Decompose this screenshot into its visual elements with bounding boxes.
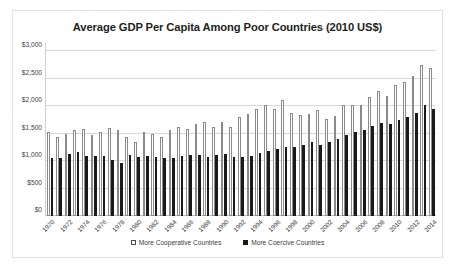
bar-group-1982 (150, 51, 159, 216)
bar-coercive-1976 (103, 156, 106, 217)
bar-cooperative-1972 (65, 134, 68, 217)
bar-coercive-2014 (432, 109, 435, 216)
bar-cooperative-1989 (212, 127, 215, 216)
y-axis-tick-label: $500 (27, 178, 42, 185)
bar-group-1985 (176, 51, 185, 216)
bar-cooperative-1993 (247, 114, 250, 216)
bar-coercive-2005 (354, 132, 357, 216)
bar-group-1977 (107, 51, 116, 216)
bar-cooperative-1994 (255, 109, 258, 216)
bar-group-2006 (358, 51, 367, 216)
bar-group-2008 (376, 51, 385, 216)
plot-area: $3,000$2,500$2,000$1,500$1,000$500$0 (46, 51, 436, 216)
chart-card: Average GDP Per Capita Among Poor Countr… (12, 10, 443, 258)
bar-cooperative-1986 (186, 129, 189, 216)
legend-label-coercive: More Coercive Countries (251, 239, 324, 246)
bar-group-2004 (341, 51, 350, 216)
bar-cooperative-1970 (47, 132, 50, 216)
bar-cooperative-1976 (99, 132, 102, 216)
bar-cooperative-1985 (177, 127, 180, 216)
bar-group-1989 (211, 51, 220, 216)
bar-group-1979 (124, 51, 133, 216)
bar-coercive-2004 (345, 135, 348, 216)
bar-coercive-1995 (267, 151, 270, 216)
y-axis-tick-label: $3,000 (22, 41, 42, 48)
bar-cooperative-1971 (56, 137, 59, 216)
bar-group-2011 (402, 51, 411, 216)
bar-group-1970 (46, 51, 55, 216)
legend-label-cooperative: More Cooperative Countries (139, 239, 221, 246)
bar-coercive-2007 (371, 126, 374, 216)
bar-cooperative-2009 (386, 96, 389, 216)
bar-coercive-2012 (415, 113, 418, 216)
bar-cooperative-2005 (351, 105, 354, 216)
legend-item-cooperative: More Cooperative Countries (131, 239, 221, 246)
bar-cooperative-2014 (429, 68, 432, 217)
bar-group-2007 (367, 51, 376, 216)
bar-group-1972 (63, 51, 72, 216)
bar-group-1995 (263, 51, 272, 216)
bar-coercive-1998 (293, 147, 296, 216)
y-axis-tick-label: $2,000 (22, 96, 42, 103)
bar-coercive-1972 (68, 154, 71, 216)
bar-cooperative-1975 (91, 135, 94, 216)
bar-coercive-2008 (380, 123, 383, 216)
bar-cooperative-2000 (308, 114, 311, 216)
bar-coercive-1989 (215, 155, 218, 216)
bar-group-1990 (219, 51, 228, 216)
bar-coercive-1981 (146, 156, 149, 216)
bar-group-2005 (350, 51, 359, 216)
bar-coercive-1982 (155, 157, 158, 216)
bar-coercive-1991 (233, 157, 236, 216)
bar-group-2010 (393, 51, 402, 216)
bar-coercive-1979 (129, 155, 132, 216)
bar-cooperative-2013 (420, 65, 423, 216)
bar-group-2002 (324, 51, 333, 216)
bar-cooperative-2007 (368, 97, 371, 216)
bar-group-1975 (89, 51, 98, 216)
chart-legend: More Cooperative Countries More Coercive… (13, 239, 442, 246)
bar-group-1984 (167, 51, 176, 216)
bar-coercive-1974 (85, 156, 88, 217)
bar-cooperative-1987 (195, 124, 198, 216)
bar-cooperative-1992 (238, 117, 241, 216)
bar-cooperative-1979 (125, 137, 128, 216)
bar-group-1991 (228, 51, 237, 216)
bar-coercive-1997 (285, 147, 288, 216)
bar-cooperative-1984 (169, 130, 172, 216)
bar-cooperative-2010 (394, 85, 397, 216)
bar-coercive-1990 (224, 154, 227, 216)
bar-cooperative-1996 (273, 109, 276, 216)
bar-coercive-1973 (77, 152, 80, 216)
bar-group-1971 (55, 51, 64, 216)
y-axis-tick-label: $1,000 (22, 151, 42, 158)
bar-group-1996 (271, 51, 280, 216)
bar-group-2012 (410, 51, 419, 216)
bar-coercive-2000 (311, 142, 314, 216)
bar-coercive-1992 (241, 157, 244, 216)
bar-cooperative-2012 (412, 76, 415, 216)
bar-coercive-2006 (363, 130, 366, 216)
bar-coercive-2003 (337, 139, 340, 216)
bar-group-2013 (419, 51, 428, 216)
bar-coercive-2010 (398, 120, 401, 216)
bar-group-1976 (98, 51, 107, 216)
chart-title: Average GDP Per Capita Among Poor Countr… (13, 21, 442, 33)
bar-group-1974 (81, 51, 90, 216)
bar-cooperative-1983 (160, 137, 163, 216)
bar-coercive-2013 (424, 105, 427, 216)
bar-coercive-1970 (51, 158, 54, 216)
bar-cooperative-2002 (325, 119, 328, 216)
bar-coercive-1985 (181, 156, 184, 217)
bar-cooperative-1995 (264, 105, 267, 216)
bar-cooperative-2001 (316, 110, 319, 216)
bar-coercive-1988 (207, 157, 210, 216)
bar-group-2009 (384, 51, 393, 216)
bar-group-1992 (237, 51, 246, 216)
bar-group-1987 (193, 51, 202, 216)
bar-coercive-1994 (259, 153, 262, 216)
bar-series-container (46, 51, 436, 216)
bar-group-2014 (428, 51, 437, 216)
bar-cooperative-1988 (203, 122, 206, 216)
bar-cooperative-1974 (82, 129, 85, 216)
